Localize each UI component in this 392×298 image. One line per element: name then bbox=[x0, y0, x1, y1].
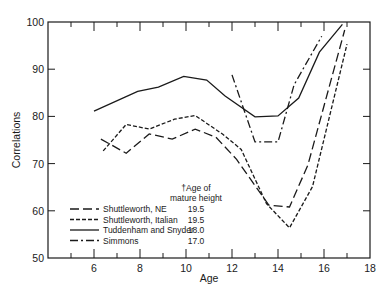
x-tick-label: 18 bbox=[364, 262, 376, 274]
legend-header-line2: mature height bbox=[170, 193, 223, 203]
line-chart: 5060708090100 681012141618 Correlations … bbox=[0, 0, 392, 298]
series-line-shuttleworth-ne bbox=[101, 30, 345, 207]
y-tick-label: 90 bbox=[32, 63, 44, 75]
x-axis-title: Age bbox=[200, 272, 219, 284]
y-axis-title: Correlations bbox=[10, 112, 22, 169]
y-tick-label: 100 bbox=[26, 16, 44, 28]
y-tick-label: 70 bbox=[32, 158, 44, 170]
legend-label: Tuddenham and Snyder bbox=[103, 225, 194, 235]
plot-frame bbox=[48, 22, 370, 258]
x-tick-label: 8 bbox=[137, 262, 143, 274]
x-tick-label: 10 bbox=[180, 262, 192, 274]
legend-label: Shuttleworth, Italian bbox=[103, 215, 178, 225]
y-tick-label: 60 bbox=[32, 205, 44, 217]
legend-mature-age: 17.0 bbox=[188, 236, 205, 246]
y-tick-label: 50 bbox=[32, 252, 44, 264]
legend-mature-age: 18.0 bbox=[188, 225, 205, 235]
x-tick-label: 12 bbox=[226, 262, 238, 274]
legend-header-line1: †Age of bbox=[181, 183, 211, 193]
legend-mature-age: 19.5 bbox=[188, 204, 205, 214]
x-tick-label: 16 bbox=[318, 262, 330, 274]
legend-label: Shuttleworth, NE bbox=[103, 204, 167, 214]
legend-label: Simmons bbox=[103, 236, 138, 246]
plot-border bbox=[48, 22, 370, 258]
legend: †Age of mature height Shuttleworth, NE19… bbox=[70, 183, 223, 246]
legend-mature-age: 19.5 bbox=[188, 215, 205, 225]
x-tick-label: 6 bbox=[91, 262, 97, 274]
series-line-simmons bbox=[232, 36, 322, 142]
y-tick-label: 80 bbox=[32, 110, 44, 122]
x-tick-label: 14 bbox=[272, 262, 284, 274]
series-line-tuddenham-and-snyder bbox=[94, 24, 342, 117]
